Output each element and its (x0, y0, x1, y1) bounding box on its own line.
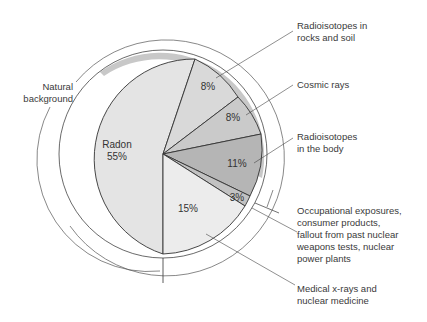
pct-occupational: 3% (228, 192, 246, 203)
label-radon: Radon (97, 139, 137, 150)
pct-cosmic: 8% (223, 112, 243, 123)
pct-medical: 15% (176, 203, 200, 214)
label-body: Radioisotopes in the body (297, 131, 357, 155)
pct-radon: 55% (97, 151, 137, 162)
pct-rocks: 8% (198, 81, 218, 92)
pct-body: 11% (225, 158, 249, 169)
label-medical: Medical x-rays and nuclear medicine (297, 283, 377, 307)
pie-chart (0, 0, 427, 322)
label-occupational: Occupational exposures, consumer product… (297, 205, 402, 265)
label-cosmic-rays: Cosmic rays (297, 79, 349, 91)
label-natural-background: Natural background (17, 81, 73, 105)
label-rocks-soil: Radioisotopes in rocks and soil (297, 20, 367, 44)
